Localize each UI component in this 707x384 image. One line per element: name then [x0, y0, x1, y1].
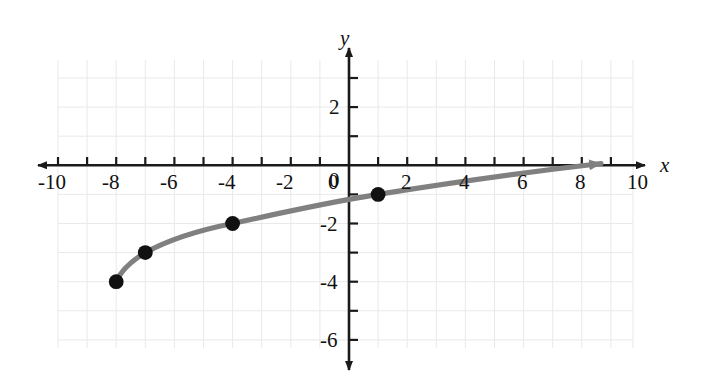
- x-tick-label-4: 4: [459, 172, 470, 193]
- x-tick-label-neg4: -4: [218, 172, 236, 193]
- grid-vertical: [58, 60, 633, 348]
- x-tick-label-2: 2: [401, 172, 412, 193]
- data-point: [138, 245, 153, 260]
- x-tick-label-8: 8: [575, 172, 586, 193]
- data-point: [225, 216, 240, 231]
- graph-figure: -10 -8 -6 -4 -2 0 2 4 6 8 10 2 0 -2 -4 -…: [0, 0, 707, 384]
- y-tick-label-neg2: -2: [320, 214, 338, 235]
- data-point: [371, 187, 386, 202]
- x-tick-label-10: 10: [627, 172, 648, 193]
- y-axis-ticks: [349, 78, 358, 340]
- grid-lines: [58, 60, 633, 348]
- grid-horizontal: [58, 78, 633, 340]
- x-tick-label-neg2: -2: [276, 172, 294, 193]
- function-curve: [116, 164, 601, 282]
- x-tick-label-neg6: -6: [160, 172, 178, 193]
- y-axis-label: y: [340, 28, 349, 49]
- y-tick-label-2: 2: [329, 97, 340, 118]
- x-axis-label: x: [660, 155, 669, 176]
- y-tick-label-0: 0: [329, 170, 340, 191]
- x-tick-label-6: 6: [517, 172, 528, 193]
- x-tick-label-neg8: -8: [102, 172, 120, 193]
- y-tick-label-neg4: -4: [320, 272, 338, 293]
- data-point: [109, 274, 124, 289]
- x-tick-label-neg10: -10: [38, 172, 66, 193]
- y-tick-label-neg6: -6: [320, 330, 338, 351]
